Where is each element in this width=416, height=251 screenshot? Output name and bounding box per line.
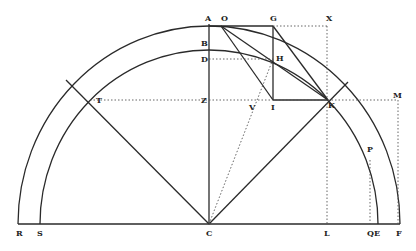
label-f: F: [396, 228, 402, 238]
label-l: L: [324, 228, 330, 238]
label-m: M: [393, 90, 402, 100]
label-e: E: [374, 228, 380, 238]
label-q: Q: [367, 228, 374, 238]
geometry-diagram: A O G X B D H Z V I K M T P R S C L Q E …: [0, 0, 416, 251]
label-r: R: [16, 228, 23, 238]
label-o: O: [221, 13, 228, 23]
line-ok: [221, 26, 328, 100]
line-ct: [66, 80, 209, 224]
label-v: V: [248, 102, 256, 112]
label-g: G: [270, 13, 277, 23]
label-x: X: [326, 13, 333, 23]
label-s: S: [37, 228, 43, 238]
line-oi: [221, 26, 273, 100]
label-t: T: [96, 95, 102, 105]
label-a: A: [204, 13, 212, 23]
label-i: I: [271, 102, 275, 112]
label-k: K: [328, 100, 336, 110]
label-p: P: [367, 144, 373, 154]
dot-cv: [209, 59, 273, 224]
label-d: D: [201, 54, 208, 64]
label-h: H: [276, 53, 284, 63]
label-c: C: [206, 228, 212, 238]
label-b: B: [201, 38, 208, 48]
label-z: Z: [201, 95, 207, 105]
